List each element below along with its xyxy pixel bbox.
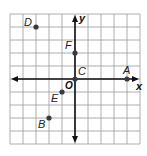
y-axis-arrow-up [72, 15, 78, 22]
point-label: C [78, 65, 86, 77]
point-marker [72, 50, 77, 55]
point-marker [124, 76, 129, 81]
point-label: D [24, 16, 32, 28]
point-label: F [65, 39, 73, 51]
point-label: E [51, 92, 59, 104]
point-label: B [38, 118, 45, 130]
point-b: B [38, 115, 52, 130]
point-marker [59, 89, 64, 94]
point-marker [33, 24, 38, 29]
point-label: A [122, 64, 130, 76]
x-axis-arrow-left [11, 76, 18, 82]
point-d: D [24, 16, 39, 30]
x-axis-label: x [135, 80, 143, 92]
point-marker [46, 115, 51, 120]
y-axis-arrow-down [72, 136, 78, 143]
origin-label: O [65, 80, 73, 91]
point-e: E [51, 89, 65, 104]
point-marker [72, 76, 77, 81]
coordinate-plane: x y O ABCDEF [0, 0, 147, 156]
y-axis-label: y [78, 12, 86, 24]
